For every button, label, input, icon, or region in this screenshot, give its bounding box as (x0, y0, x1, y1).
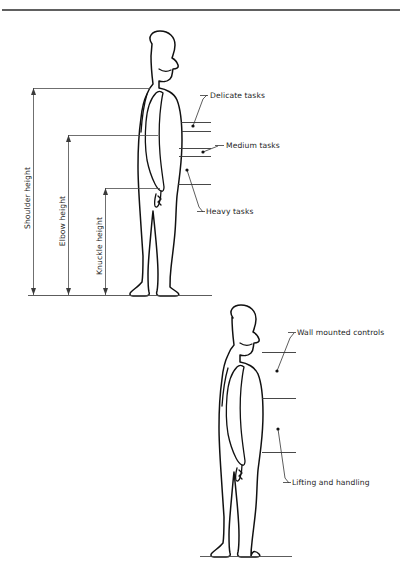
heavy-tasks-label: Heavy tasks (206, 207, 253, 216)
lifting-and-handling-label: Lifting and handling (292, 478, 370, 487)
medium-tasks-leader-dot (201, 150, 204, 153)
wall-mounted-controls-label: Wall mounted controls (297, 328, 384, 337)
diagram-canvas: Shoulder height Elbow height Knuckle hei… (0, 0, 402, 571)
shoulder-height-label: Shoulder height (23, 167, 32, 229)
knuckle-height-label: Knuckle height (95, 217, 104, 275)
delicate-tasks-leader-dot (191, 124, 194, 127)
lifting-and-handling-leader-dot (276, 427, 279, 430)
elbow-height-label: Elbow height (58, 196, 67, 246)
heavy-tasks-leader-dot (185, 168, 188, 171)
delicate-tasks-label: Delicate tasks (210, 91, 265, 100)
ergonomic-heights-diagram: Shoulder height Elbow height Knuckle hei… (0, 0, 402, 571)
medium-tasks-label: Medium tasks (226, 141, 280, 150)
wall-mounted-controls-leader-dot (275, 369, 278, 372)
